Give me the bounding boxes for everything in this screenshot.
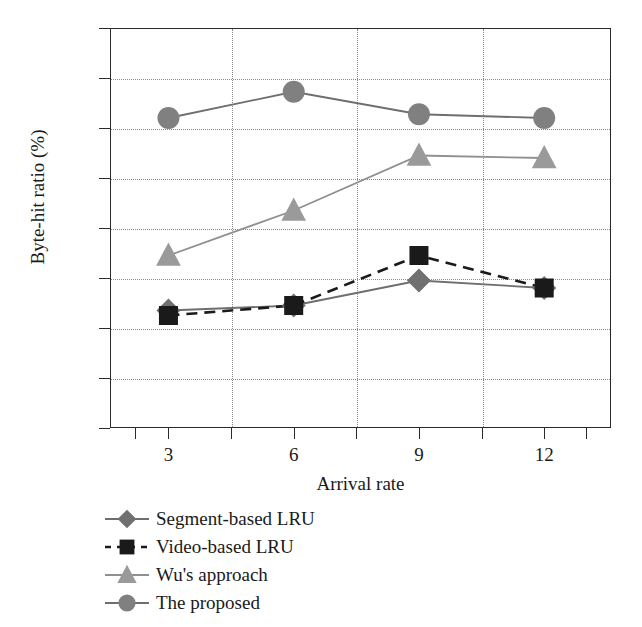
- y-tick-mark: [99, 378, 110, 379]
- legend-marker: [104, 590, 150, 616]
- x-tick-mark: [544, 428, 545, 439]
- x-axis-label: Arrival rate: [110, 473, 611, 495]
- legend-marker-glyph: [104, 590, 150, 616]
- triangle-marker: [156, 243, 181, 266]
- x-tick-mark: [135, 428, 136, 439]
- y-tick-mark: [99, 328, 110, 329]
- y-tick-mark: [99, 128, 110, 129]
- x-tick-mark: [482, 428, 483, 439]
- legend-label: Video-based LRU: [156, 537, 294, 557]
- diamond-marker: [407, 269, 431, 293]
- legend-item: Wu's approach: [104, 561, 524, 589]
- triangle-marker: [117, 565, 136, 583]
- triangle-marker: [281, 198, 306, 221]
- series-line: [168, 281, 544, 311]
- series-line: [168, 156, 544, 256]
- legend-item: Segment-based LRU: [104, 505, 524, 533]
- x-tick-mark: [419, 428, 420, 439]
- y-tick-mark: [99, 428, 110, 429]
- legend-marker-glyph: [104, 562, 150, 588]
- legend-marker-glyph: [104, 506, 150, 532]
- y-tick-mark: [99, 78, 110, 79]
- y-tick-mark: [99, 178, 110, 179]
- x-tick-mark: [168, 428, 169, 439]
- series-line: [168, 92, 544, 118]
- data-series-layer: [110, 28, 611, 428]
- x-tick-mark: [294, 428, 295, 439]
- circle-marker: [118, 594, 135, 611]
- series-markers: [157, 81, 555, 129]
- diamond-marker: [118, 510, 137, 529]
- square-marker: [535, 279, 554, 298]
- y-axis-label: Byte-hit ratio (%): [27, 37, 49, 357]
- triangle-marker: [407, 143, 432, 166]
- square-marker: [409, 246, 428, 265]
- triangle-marker: [532, 145, 557, 168]
- square-marker: [159, 306, 178, 325]
- x-tick-label: 3: [138, 444, 198, 465]
- square-marker: [120, 540, 135, 555]
- circle-marker: [408, 103, 430, 125]
- circle-marker: [157, 107, 179, 129]
- circle-marker: [283, 81, 305, 103]
- circle-marker: [533, 107, 555, 129]
- x-tick-mark: [586, 428, 587, 439]
- legend-item: The proposed: [104, 589, 524, 617]
- legend-label: Segment-based LRU: [156, 509, 315, 529]
- y-tick-mark: [99, 228, 110, 229]
- legend-item: Video-based LRU: [104, 533, 524, 561]
- series-markers: [156, 269, 556, 323]
- y-tick-mark: [99, 278, 110, 279]
- legend-marker: [104, 506, 150, 532]
- x-tick-mark: [356, 428, 357, 439]
- x-tick-label: 9: [389, 444, 449, 465]
- chart-legend: Segment-based LRUVideo-based LRUWu's app…: [104, 505, 524, 617]
- x-tick-label: 12: [514, 444, 574, 465]
- series-markers: [156, 143, 556, 266]
- legend-marker: [104, 562, 150, 588]
- square-marker: [284, 296, 303, 315]
- legend-marker: [104, 534, 150, 560]
- legend-marker-glyph: [104, 534, 150, 560]
- x-tick-mark: [231, 428, 232, 439]
- legend-label: Wu's approach: [156, 565, 268, 585]
- y-tick-mark: [99, 28, 110, 29]
- x-tick-label: 6: [264, 444, 324, 465]
- legend-label: The proposed: [156, 593, 260, 613]
- chart-figure: Byte-hit ratio (%) 485052545658606264 36…: [0, 0, 642, 627]
